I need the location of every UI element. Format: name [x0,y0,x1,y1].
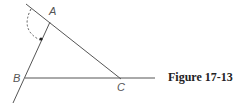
figure-caption: Figure 17-13 [168,70,233,84]
label-C: C [117,81,125,93]
line-through-A-and-C [26,4,121,79]
label-B: B [13,72,20,84]
label-A: A [48,5,56,17]
arrow-head-icon [39,37,42,40]
geometry-figure: A B C Figure 17-13 [0,0,237,112]
line-through-B-and-A [13,22,50,103]
